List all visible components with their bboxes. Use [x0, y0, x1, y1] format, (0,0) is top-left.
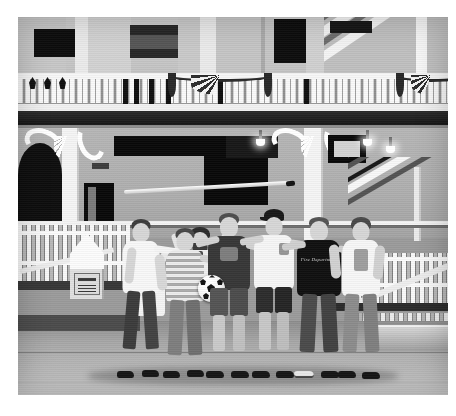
pendant-lamp-1 [259, 130, 262, 141]
storey-divider-band [18, 111, 448, 125]
interior-dark-opening [204, 155, 268, 205]
bracket-fan-detail [301, 136, 327, 160]
person-with-cap [250, 215, 298, 375]
leg-right [362, 294, 379, 353]
legs [168, 300, 202, 358]
person-striped-shirt [162, 225, 208, 375]
shoe-left [117, 371, 134, 378]
shorts-left [210, 288, 228, 316]
leg-right [320, 294, 338, 353]
leg-right [142, 291, 159, 350]
ball-pentagon-1 [200, 279, 206, 285]
leg-right [186, 300, 203, 356]
shirt-graphic [354, 249, 368, 271]
screenshot-root: Fire Department [0, 0, 456, 416]
ball-pentagon-3 [203, 293, 209, 299]
bunting-tail-left [168, 73, 176, 97]
head [353, 222, 370, 241]
balcony-dark-baluster-1 [123, 79, 128, 104]
upper-window-2-glint [130, 35, 178, 49]
arm-down-left [329, 244, 342, 279]
balcony-base-rail [18, 104, 448, 111]
shirt-graphic [220, 247, 238, 261]
bunting-swag-left [168, 69, 272, 95]
shoe-left [206, 371, 224, 378]
shoe-left [294, 371, 314, 378]
legs [301, 294, 337, 354]
leg-left [213, 315, 225, 351]
head [133, 223, 150, 242]
person-black-shirt: Fire Department [294, 219, 344, 375]
doorway-left-glint [88, 187, 96, 225]
upper-window-1 [34, 29, 76, 57]
scroll-bracket-left [24, 129, 110, 159]
shoe-right [142, 370, 159, 377]
arm-down-right [373, 245, 386, 280]
leg-left [299, 294, 317, 353]
shoe-right [187, 370, 204, 377]
held-pole-tip [286, 181, 295, 186]
bunting-tail-left [396, 73, 404, 97]
ball-pentagon-2 [217, 279, 223, 285]
ball-pentagon-5 [209, 275, 215, 279]
bracket-fan-detail [54, 136, 80, 160]
group-photograph: Fire Department [18, 17, 448, 395]
shoe-left [338, 371, 356, 378]
head [310, 221, 328, 241]
shoe-left [252, 371, 270, 378]
shorts [256, 287, 292, 313]
leg-left [122, 291, 140, 350]
wall-sign-left [92, 163, 109, 169]
person-right-end [338, 219, 384, 375]
legs [344, 294, 378, 354]
leg-right [233, 315, 245, 351]
leg-left [168, 300, 185, 356]
pendant-lamp-2 [366, 130, 369, 141]
upper-window-3 [274, 19, 306, 63]
upper-window-4 [330, 21, 372, 33]
wall-plaque-sign [74, 273, 100, 295]
bunting-fan-rosette [411, 75, 448, 95]
legs [213, 315, 245, 353]
leg-left [342, 294, 359, 353]
soffit-shadow-left [114, 136, 234, 156]
bunting-fan-rosette [191, 75, 249, 95]
balcony-dark-baluster-3 [149, 79, 154, 104]
shoe-right [362, 372, 380, 379]
head [266, 217, 283, 236]
legs [259, 312, 289, 352]
fence-top-band [18, 231, 130, 235]
wall-panel-insert [334, 141, 360, 157]
legs [124, 291, 158, 353]
person-white-tshirt [118, 219, 164, 375]
leg-right [277, 312, 289, 350]
stair-newel-post [414, 167, 421, 241]
bunting-tail-right [264, 73, 272, 97]
shoe-left [163, 371, 180, 378]
shorts [210, 288, 248, 316]
shorts-right [230, 288, 248, 316]
balcony-dark-baluster-6 [304, 79, 309, 104]
shoe-right [321, 371, 339, 378]
balcony-dark-baluster-2 [134, 79, 139, 104]
shoe-right [231, 371, 249, 378]
bunting-swag-right [396, 69, 448, 95]
shorts-right [275, 287, 292, 313]
shoe-right [276, 371, 294, 378]
head [177, 232, 194, 251]
upper-wall-seam [261, 17, 265, 73]
head [220, 217, 238, 237]
pendant-lamp-3 [389, 137, 392, 148]
leg-left [259, 312, 271, 350]
shorts-left [256, 287, 273, 313]
